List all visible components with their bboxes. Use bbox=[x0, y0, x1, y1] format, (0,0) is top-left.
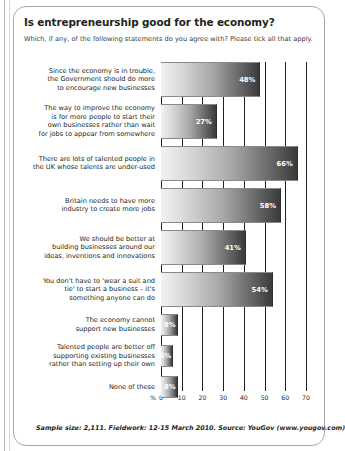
bar-row: There are lots of talented people in the… bbox=[161, 146, 306, 181]
x-axis-unit-label: % bbox=[150, 394, 156, 401]
bar[interactable]: 66% bbox=[161, 146, 298, 181]
bar-row: None of these8% bbox=[161, 376, 306, 398]
bar-category-label: We should be better at building business… bbox=[5, 235, 155, 261]
bar-row: The economy cannot support new businesse… bbox=[161, 314, 306, 336]
bar-value-label: 54% bbox=[252, 286, 268, 294]
bar-category-label: Since the economy is in trouble, the Gov… bbox=[5, 67, 155, 93]
page-title: Is entrepreneurship good for the economy… bbox=[24, 16, 275, 28]
bar-category-label: The way to improve the economy is for mo… bbox=[5, 104, 155, 138]
bar-category-label: Britain needs to have more industry to c… bbox=[5, 197, 155, 214]
plot-area: 010203040506070%Since the economy is in … bbox=[161, 62, 306, 391]
bar-value-label: 41% bbox=[225, 244, 241, 252]
page-subtitle: Which, if any, of the following statemen… bbox=[24, 35, 313, 43]
bar-chart: 010203040506070%Since the economy is in … bbox=[14, 56, 326, 406]
source-note: Sample size: 2,111. Fieldwork: 12-15 Mar… bbox=[36, 424, 345, 432]
bar[interactable]: 54% bbox=[161, 272, 273, 307]
bar-category-label: The economy cannot support new businesse… bbox=[5, 316, 155, 333]
bar-row: Britain needs to have more industry to c… bbox=[161, 188, 306, 223]
bar-category-label: You don't have to 'wear a suit and tie' … bbox=[5, 277, 155, 303]
bar-category-label: None of these bbox=[5, 383, 155, 392]
bar[interactable]: 8% bbox=[161, 376, 178, 398]
bar-row: Talented people are better off supportin… bbox=[161, 345, 306, 367]
bar[interactable]: 41% bbox=[161, 230, 246, 265]
bar-category-label: There are lots of talented people in the… bbox=[5, 155, 155, 172]
bar-value-label: 58% bbox=[260, 202, 276, 210]
bar[interactable]: 6% bbox=[161, 345, 173, 367]
bar-value-label: 66% bbox=[276, 160, 292, 168]
bar-value-label: 8% bbox=[164, 383, 176, 391]
bar[interactable]: 8% bbox=[161, 314, 178, 336]
bar-row: We should be better at building business… bbox=[161, 230, 306, 265]
bar-category-label: Talented people are better off supportin… bbox=[5, 343, 155, 369]
bar-value-label: 6% bbox=[160, 352, 172, 360]
bar[interactable]: 48% bbox=[161, 62, 260, 97]
gridline-70 bbox=[306, 62, 307, 391]
bar-value-label: 48% bbox=[239, 76, 255, 84]
bar[interactable]: 27% bbox=[161, 104, 217, 139]
bar-value-label: 27% bbox=[196, 118, 212, 126]
bar-row: Since the economy is in trouble, the Gov… bbox=[161, 62, 306, 97]
chart-card: Is entrepreneurship good for the economy… bbox=[13, 6, 325, 446]
bar-row: The way to improve the economy is for mo… bbox=[161, 104, 306, 139]
bar-value-label: 8% bbox=[164, 321, 176, 329]
bar[interactable]: 58% bbox=[161, 188, 281, 223]
bar-row: You don't have to 'wear a suit and tie' … bbox=[161, 272, 306, 307]
